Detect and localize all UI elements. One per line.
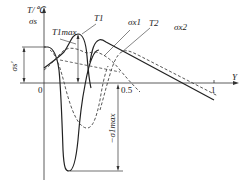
label-T2: T2	[149, 19, 159, 28]
y-axis-label-sigma: σs	[29, 17, 37, 26]
label-sigma-s-prime: σs'	[10, 62, 19, 72]
arrow-down-icon	[77, 78, 80, 83]
label-sigma-x2: σx2	[174, 23, 187, 32]
curve-sigma-deep	[44, 47, 99, 171]
y-axis-label-temperature: T/℃	[27, 6, 45, 15]
curve-T2	[90, 40, 214, 100]
leader-T2	[122, 28, 150, 52]
label-T1: T1	[94, 14, 104, 23]
tick-label-one: 1	[211, 86, 216, 95]
x-axis-label: Y	[232, 73, 237, 82]
arrow-down-icon	[23, 78, 26, 83]
curve-sigma-x1-trough	[50, 50, 108, 128]
arrow-up-icon	[23, 47, 26, 52]
label-neg-sigma-1max: −σ1max	[108, 113, 117, 143]
label-sigma-x1: σx1	[128, 18, 141, 27]
arrow-down-icon	[117, 166, 120, 171]
origin-label: 0	[38, 86, 43, 95]
leader-T1	[82, 24, 96, 34]
label-T1max: T1max	[52, 28, 77, 37]
tick-label-half: 0.5	[121, 86, 132, 95]
leader-T1max	[60, 39, 76, 44]
curve-T1	[44, 34, 91, 88]
arrow-up-icon	[117, 84, 120, 89]
